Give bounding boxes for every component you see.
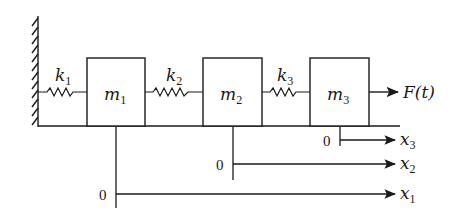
spring-k1 xyxy=(38,88,87,96)
spring-k3-label: k3 xyxy=(277,65,293,88)
axis-x2-label: x2 xyxy=(400,153,416,176)
spring-k1-label: k1 xyxy=(55,65,71,88)
spring-mass-diagram: k1 m1 k2 m2 k3 m3 F(t) 0 x3 0 xyxy=(0,0,456,219)
fixed-wall xyxy=(32,16,38,127)
axis-x3-origin: 0 xyxy=(323,133,331,149)
spring-k2 xyxy=(145,88,203,96)
axis-x3-label: x3 xyxy=(400,129,416,152)
axis-x1-origin: 0 xyxy=(99,187,107,203)
axis-x1-label: x1 xyxy=(400,183,416,206)
axis-x2-origin: 0 xyxy=(216,157,224,173)
spring-k2-label: k2 xyxy=(166,65,182,88)
force-label: F(t) xyxy=(402,82,435,102)
axis-x3 xyxy=(340,127,395,146)
spring-k3 xyxy=(262,88,310,96)
axis-x1 xyxy=(116,127,395,208)
axis-x2 xyxy=(233,127,395,180)
